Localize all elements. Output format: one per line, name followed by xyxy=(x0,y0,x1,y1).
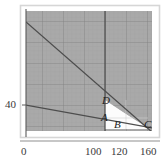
x-tick-label-100: 100 xyxy=(85,146,102,157)
y-tick-label-40: 40 xyxy=(5,99,16,110)
point-label-a: A xyxy=(101,112,108,123)
x-tick-label-0: 0 xyxy=(21,146,27,157)
point-label-c: C xyxy=(144,119,151,130)
plot-canvas xyxy=(0,0,166,162)
figure-container: 0 100 120 160 40 A B C D xyxy=(0,0,166,162)
point-label-b: B xyxy=(114,119,121,130)
x-tick-label-160: 160 xyxy=(140,146,157,157)
coarse-grid xyxy=(26,11,152,131)
x-tick-label-120: 120 xyxy=(111,146,128,157)
point-label-d: D xyxy=(102,95,110,106)
